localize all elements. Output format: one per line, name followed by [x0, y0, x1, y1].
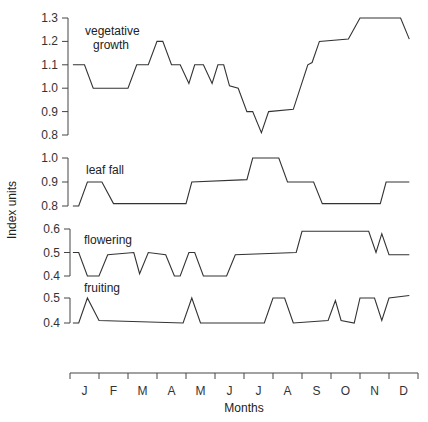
y-tick-label: 1.3: [41, 11, 58, 25]
y-tick-label: 0.4: [43, 269, 60, 283]
x-tick-label: J: [256, 384, 262, 398]
x-axis-title: Months: [224, 401, 263, 415]
x-tick-label: A: [283, 384, 291, 398]
x-tick-label: J: [82, 384, 88, 398]
y-tick-label: 0.9: [41, 105, 58, 119]
x-tick-label: J: [227, 384, 233, 398]
phenology-chart: 1.31.21.11.00.90.8vegetativegrowth1.00.9…: [0, 0, 428, 422]
series-label: growth: [93, 38, 129, 52]
series-label: vegetative: [85, 24, 140, 38]
series-line-fruiting: [73, 296, 409, 324]
y-tick-label: 0.5: [43, 246, 60, 260]
series-label: fruiting: [84, 281, 120, 295]
y-tick-label: 0.6: [43, 222, 60, 236]
panel-fruiting: 0.50.4fruiting: [43, 281, 409, 330]
y-axis-title: Index units: [5, 181, 19, 239]
panel-vegetative-growth: 1.31.21.11.00.90.8vegetativegrowth: [41, 11, 409, 142]
x-tick-label: F: [110, 384, 117, 398]
x-tick-label: M: [196, 384, 206, 398]
y-tick-label: 1.0: [41, 151, 58, 165]
y-tick-label: 0.8: [41, 199, 58, 213]
panel-flowering: 0.60.50.4flowering: [43, 222, 409, 283]
y-tick-label: 0.4: [43, 316, 60, 330]
chart-panels: 1.31.21.11.00.90.8vegetativegrowth1.00.9…: [41, 11, 409, 330]
panel-leaf-fall: 1.00.90.8leaf fall: [41, 151, 409, 213]
x-tick-label: A: [167, 384, 175, 398]
y-tick-label: 0.8: [41, 128, 58, 142]
x-tick-label: O: [341, 384, 350, 398]
y-tick-label: 0.5: [43, 291, 60, 305]
x-tick-label: D: [399, 384, 408, 398]
x-axis: JFMAMJJASOND: [70, 373, 418, 398]
y-tick-label: 1.2: [41, 34, 58, 48]
x-tick-label: S: [312, 384, 320, 398]
y-tick-label: 1.1: [41, 58, 58, 72]
x-tick-label: M: [138, 384, 148, 398]
series-label: leaf fall: [86, 163, 124, 177]
x-tick-label: N: [370, 384, 379, 398]
y-tick-label: 0.9: [41, 175, 58, 189]
series-label: flowering: [84, 233, 132, 247]
y-tick-label: 1.0: [41, 81, 58, 95]
